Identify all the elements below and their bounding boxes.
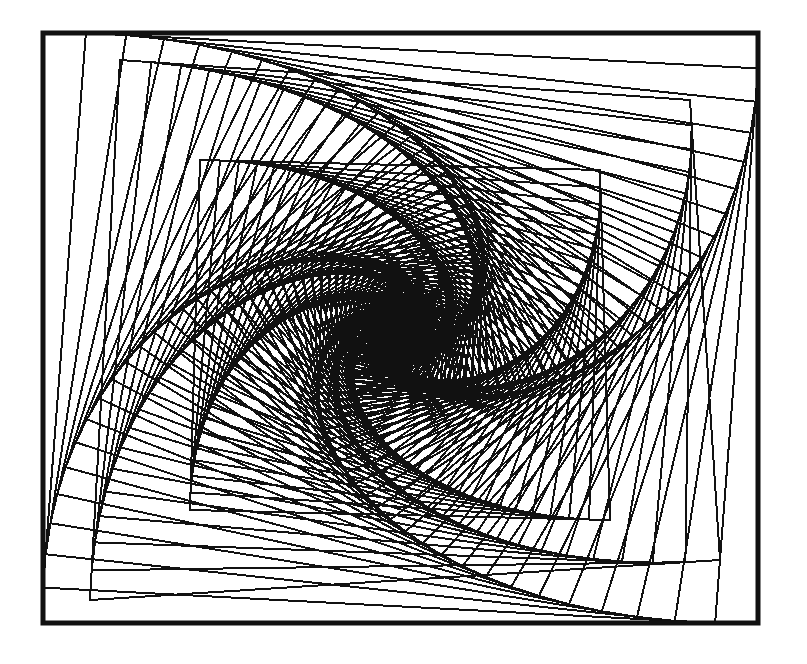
whirl-artwork xyxy=(0,0,807,664)
